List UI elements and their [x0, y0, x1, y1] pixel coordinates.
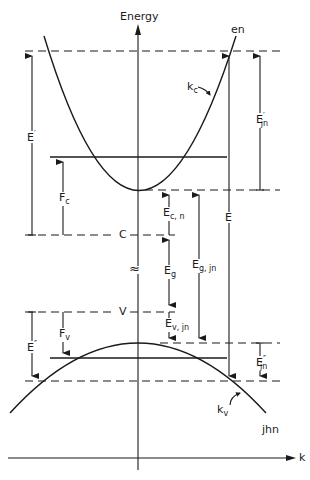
e-prime-label: E′ [27, 131, 36, 143]
egjn-label: Eg, jn [192, 259, 216, 273]
conduction-band-curve [44, 36, 236, 191]
ejn-prime-label: E′jn [256, 113, 268, 128]
valence-band-label: jhn [262, 424, 279, 435]
axis-break-symbol: ≈ [129, 262, 140, 275]
ejn-double-prime-label: E″jn [256, 356, 267, 371]
eg-label: Eg [164, 265, 176, 279]
e-label: E [225, 212, 232, 223]
fc-label: Fc [59, 192, 70, 206]
kc-label: kc [187, 81, 198, 95]
kv-label: kv [217, 404, 228, 418]
v-level-label: V [118, 306, 128, 317]
energy-axis-label: Energy [120, 11, 159, 22]
fv-label: Fv [59, 328, 70, 342]
c-level-label: C [118, 229, 128, 240]
diagram-graphics [0, 0, 310, 480]
ecn-label: Ec, n [163, 207, 185, 221]
band-diagram: Energy k en jhn kc kv C V ≈ E′ Fc Fv E″ … [0, 0, 310, 480]
conduction-band-label: en [231, 24, 245, 35]
k-axis-label: k [299, 452, 305, 463]
evjn-label: Ev, jn [165, 318, 189, 332]
e-double-prime-label: E″ [27, 341, 37, 353]
